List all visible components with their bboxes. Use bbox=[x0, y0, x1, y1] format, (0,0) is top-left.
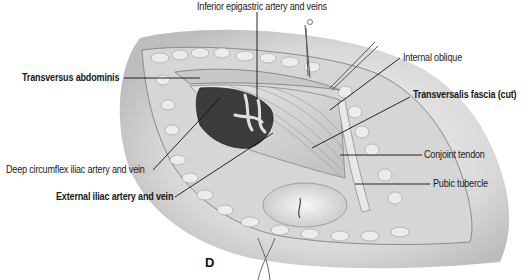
anatomical-illustration: Inferior epigastric artery and veins Tra… bbox=[0, 0, 530, 280]
label-transversus-abdominis: Transversus abdominis bbox=[22, 71, 119, 83]
label-inferior-epigastric: Inferior epigastric artery and veins bbox=[197, 0, 327, 12]
label-pubic-tubercle: Pubic tubercle bbox=[433, 177, 488, 189]
label-conjoint-tendon: Conjoint tendon bbox=[424, 148, 485, 160]
panel-letter: D bbox=[205, 255, 214, 270]
label-transversalis-fascia: Transversalis fascia (cut) bbox=[413, 88, 516, 100]
label-external-iliac: External iliac artery and vein bbox=[56, 190, 173, 202]
label-deep-circumflex-iliac: Deep circumflex iliac artery and vein bbox=[6, 163, 145, 175]
label-internal-oblique: Internal oblique bbox=[403, 51, 462, 63]
surgical-field-drawing bbox=[0, 0, 530, 280]
